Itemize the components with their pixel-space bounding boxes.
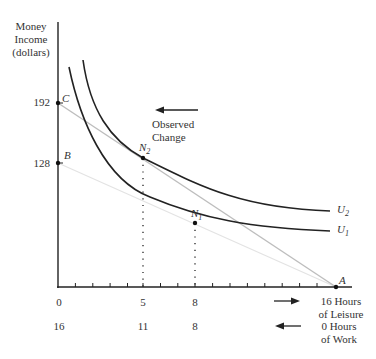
point-label-b: B: [64, 149, 71, 162]
point-label-n2: N2: [139, 141, 150, 158]
annotation-line-2: Change: [152, 131, 194, 144]
leisure-axis-label: 16 Hours of Leisure: [310, 295, 372, 321]
arrow-left-icon: [275, 323, 284, 330]
annotation-line-1: Observed: [152, 118, 194, 131]
curve-label-u1: U1: [337, 223, 349, 240]
indifference-curve-u2: [83, 60, 330, 211]
observed-change-label: Observed Change: [152, 118, 194, 144]
x-tick-work-11: 11: [134, 320, 152, 333]
y-label-line-2: Income: [6, 33, 56, 46]
point-label-c: C: [62, 92, 69, 105]
budget-line-ca: [58, 103, 336, 287]
x-tick-leisure-0: 0: [53, 296, 65, 309]
leisure-label-line-1: 16 Hours: [310, 295, 372, 308]
point-label-a: A: [339, 274, 346, 287]
point-c: [56, 101, 60, 105]
work-label-line-1: 0 Hours: [310, 320, 368, 333]
y-tick-label-192: 192: [20, 96, 50, 109]
y-label-line-1: Money: [6, 20, 56, 33]
y-label-line-3: (dollars): [6, 46, 56, 59]
arrow-left-icon: [155, 107, 164, 114]
work-axis-label: 0 Hours of Work: [310, 320, 368, 346]
x-tick-work-16: 16: [50, 320, 68, 333]
point-a: [334, 285, 338, 289]
y-tick-label-128: 128: [20, 157, 50, 170]
x-tick-work-8: 8: [189, 320, 201, 333]
point-label-n1: N1: [191, 207, 202, 224]
point-b: [56, 161, 60, 165]
budget-line-ba: [58, 163, 336, 287]
x-tick-leisure-5: 5: [137, 296, 149, 309]
y-axis-label: Money Income (dollars): [6, 20, 56, 59]
work-label-line-2: of Work: [310, 333, 368, 346]
curve-label-u2: U2: [337, 203, 349, 220]
x-tick-leisure-8: 8: [189, 296, 201, 309]
arrow-right-icon: [291, 298, 300, 305]
